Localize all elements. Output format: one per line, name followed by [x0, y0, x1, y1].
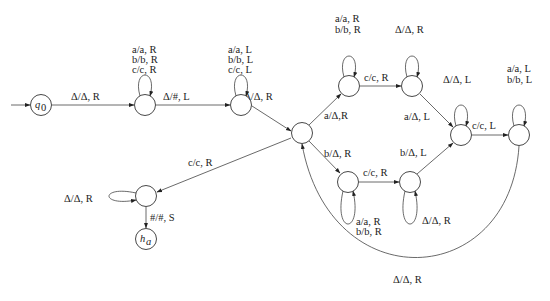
edge-label-q0-s1: Δ/Δ, R — [71, 91, 100, 102]
loop-label-s10-a: Δ/Δ, R — [64, 193, 93, 204]
edge-label-s3-s4: a/Δ,R — [324, 110, 348, 121]
edge-label-s5-s6: a/Δ, L — [404, 111, 430, 122]
edge-label-s8-s9: c/c, R — [363, 167, 388, 178]
state-s7 — [509, 125, 530, 146]
loop-s4 — [342, 56, 355, 77]
loop-s1 — [138, 75, 151, 96]
state-s1 — [135, 95, 156, 116]
loop-label-s7-a: a/a, L — [507, 63, 531, 74]
edge-label-s6-s7: c/c, L — [472, 120, 496, 131]
state-ha: h a — [136, 229, 157, 250]
state-label-q0: q — [35, 99, 40, 110]
loop-s8 — [341, 191, 355, 224]
state-s4 — [339, 76, 360, 97]
loop-s7 — [512, 105, 525, 126]
turing-machine-diagram: Δ/Δ, R a/a, R b/b, R c/c, R Δ/#, L a/a, … — [0, 0, 550, 301]
loop-label-s2-c: c/c, L — [228, 64, 252, 75]
loop-s10 — [109, 191, 136, 201]
state-s9 — [400, 172, 421, 193]
loop-label-s8-b: b/b, R — [356, 226, 382, 237]
loop-s5 — [405, 56, 418, 77]
edge-label-s3-s8: b/Δ, R — [324, 148, 351, 159]
edge-label-s10-ha: #/#, S — [150, 212, 175, 223]
edge-label-s1-s2: Δ/#, L — [163, 91, 190, 102]
loop-label-s9-a: Δ/Δ, R — [422, 215, 451, 226]
loop-label-s7-b: b/b, L — [507, 74, 532, 85]
state-s6 — [451, 125, 472, 146]
loop-label-s6-a: Δ/Δ, L — [443, 74, 471, 85]
edge-s3-s10 — [157, 138, 291, 192]
state-label-ha-sub: a — [146, 236, 151, 247]
state-s3 — [292, 123, 313, 144]
state-s10 — [136, 186, 157, 207]
state-s8 — [338, 172, 359, 193]
loop-label-s4-a: a/a, R — [335, 13, 360, 24]
state-s2 — [231, 95, 252, 116]
edge-s2-s3 — [252, 106, 291, 131]
loop-label-s1-c: c/c, R — [132, 64, 157, 75]
state-q0: q 0 — [31, 95, 52, 116]
edge-label-s4-s5: c/c, R — [364, 72, 389, 83]
state-label-q0-sub: 0 — [41, 102, 46, 113]
state-s5 — [402, 76, 423, 97]
edge-label-s3-s10: c/c, R — [188, 157, 213, 168]
edge-s7-s3 — [302, 144, 519, 258]
loop-s9 — [403, 191, 417, 224]
loop-label-s4-b: b/b, R — [335, 24, 361, 35]
edge-label-s7-s3: Δ/Δ, R — [393, 274, 422, 285]
loop-s6 — [454, 105, 467, 126]
state-label-ha: h — [140, 233, 145, 244]
edge-label-s9-s6: b/Δ, L — [400, 147, 427, 158]
loop-label-s5-a: Δ/Δ, R — [395, 24, 424, 35]
